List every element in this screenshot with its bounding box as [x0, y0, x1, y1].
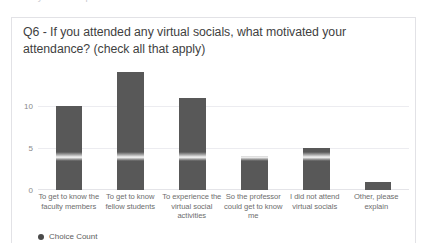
clipped-header-strip: survey results report continued — virtua… [0, 0, 429, 13]
bar [56, 106, 83, 190]
survey-question-card: Q6 - If you attended any virtual socials… [11, 17, 416, 243]
legend-item-label: Choice Count [49, 232, 97, 241]
page-title: Q6 - If you attended any virtual socials… [23, 24, 391, 58]
y-axis-tick-label: 10 [24, 102, 33, 111]
y-axis-tick-label: 5 [29, 144, 33, 153]
bar [241, 156, 268, 190]
gridline [38, 148, 409, 149]
bar [117, 72, 144, 190]
bar [365, 182, 392, 190]
y-axis-tick-label: 0 [29, 186, 33, 195]
x-axis-tick-label: I did not attend virtual socials [284, 192, 346, 211]
plot-area: 0510 [38, 64, 409, 190]
gridline [38, 106, 409, 107]
x-axis-labels: To get to know the faculty membersTo get… [38, 192, 407, 236]
x-axis-tick-label: To experience the virtual social activit… [161, 192, 223, 221]
clipped-header-text: survey results report continued — virtua… [14, 0, 221, 2]
legend-marker-icon [38, 234, 44, 240]
x-axis-tick-label: To get to know fellow students [100, 192, 162, 211]
x-axis-tick-label: So the professor could get to know me [223, 192, 285, 221]
chart-legend: Choice Count [38, 232, 97, 241]
x-axis-baseline [38, 189, 409, 190]
bar [179, 98, 206, 190]
x-axis-tick-label: Other, please explain [346, 192, 408, 211]
bar [303, 148, 330, 190]
x-axis-tick-label: To get to know the faculty members [38, 192, 100, 211]
bar-chart: 0510 [12, 64, 417, 190]
